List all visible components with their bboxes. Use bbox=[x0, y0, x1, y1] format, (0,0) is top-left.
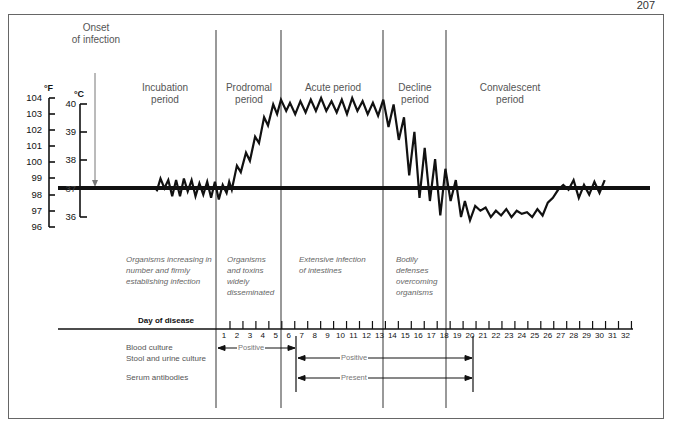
day-number: 23 bbox=[503, 331, 515, 340]
onset-label: Onset of infection bbox=[66, 22, 126, 46]
desc-line: Organisms bbox=[227, 254, 281, 265]
desc-line: Bodily bbox=[396, 254, 446, 265]
desc-line: defenses bbox=[396, 265, 446, 276]
period-convalescent: Convalescent period bbox=[470, 82, 550, 106]
day-number: 30 bbox=[594, 331, 606, 340]
desc-line: establishing infection bbox=[126, 276, 216, 287]
f-tick-99: 99 bbox=[18, 172, 42, 183]
day-number: 29 bbox=[581, 331, 593, 340]
onset-arrow bbox=[92, 73, 98, 187]
day-number: 12 bbox=[360, 331, 372, 340]
day-number: 10 bbox=[335, 331, 347, 340]
row-label-stool-urine-culture: Stool and urine culture bbox=[126, 354, 206, 363]
day-number: 17 bbox=[425, 331, 437, 340]
day-number: 15 bbox=[399, 331, 411, 340]
f-tick-103: 103 bbox=[18, 108, 42, 119]
desc-incubation: Organisms increasing in number and firml… bbox=[126, 254, 216, 287]
fahrenheit-unit: °F bbox=[44, 83, 53, 93]
period-name: Convalescent bbox=[470, 82, 550, 94]
period-prodromal: Prodromal period bbox=[218, 82, 280, 106]
period-name: Incubation bbox=[125, 82, 205, 94]
desc-line: Extensive infection bbox=[299, 254, 379, 265]
day-number: 20 bbox=[464, 331, 476, 340]
day-number: 2 bbox=[231, 331, 243, 340]
day-number: 22 bbox=[490, 331, 502, 340]
day-number: 1 bbox=[218, 331, 230, 340]
desc-prodromal: Organisms and toxins widely disseminated bbox=[227, 254, 281, 298]
onset-line2: of infection bbox=[66, 34, 126, 46]
period-name: period bbox=[125, 94, 205, 106]
c-tick-36: 36 bbox=[54, 211, 76, 222]
day-number: 5 bbox=[270, 331, 282, 340]
f-tick-98: 98 bbox=[18, 189, 42, 200]
c-tick-39: 39 bbox=[54, 126, 76, 137]
day-number: 31 bbox=[607, 331, 619, 340]
day-number: 7 bbox=[296, 331, 308, 340]
day-number: 8 bbox=[309, 331, 321, 340]
day-number: 24 bbox=[516, 331, 528, 340]
day-number: 21 bbox=[477, 331, 489, 340]
f-tick-100: 100 bbox=[18, 156, 42, 167]
celsius-axis bbox=[80, 104, 87, 217]
day-number: 26 bbox=[542, 331, 554, 340]
row-label-blood-culture: Blood culture bbox=[126, 343, 173, 352]
day-number: 6 bbox=[283, 331, 295, 340]
day-number: 18 bbox=[438, 331, 450, 340]
desc-acute: Extensive infection of intestines bbox=[299, 254, 379, 276]
day-number: 13 bbox=[373, 331, 385, 340]
day-number: 32 bbox=[619, 331, 631, 340]
day-number: 16 bbox=[412, 331, 424, 340]
day-number: 3 bbox=[244, 331, 256, 340]
desc-line: widely bbox=[227, 276, 281, 287]
desc-decline: Bodily defenses overcoming organisms bbox=[396, 254, 446, 298]
c-tick-38: 38 bbox=[54, 154, 76, 165]
period-decline: Decline period bbox=[384, 82, 446, 106]
period-name: period bbox=[218, 94, 280, 106]
f-tick-97: 97 bbox=[18, 205, 42, 216]
f-tick-101: 101 bbox=[18, 140, 42, 151]
desc-line: organisms bbox=[396, 287, 446, 298]
onset-line1: Onset bbox=[66, 22, 126, 34]
f-tick-96: 96 bbox=[18, 221, 42, 232]
serum-antibodies-result: Present bbox=[340, 373, 368, 382]
stool-urine-result: Positive bbox=[340, 353, 368, 362]
day-ticks bbox=[230, 321, 631, 329]
day-number: 25 bbox=[529, 331, 541, 340]
desc-line: number and firmly bbox=[126, 265, 216, 276]
desc-line: of intestines bbox=[299, 265, 379, 276]
day-number: 4 bbox=[257, 331, 269, 340]
f-tick-102: 102 bbox=[18, 124, 42, 135]
desc-line: Organisms increasing in bbox=[126, 254, 216, 265]
period-name: Decline bbox=[384, 82, 446, 94]
row-label-serum-antibodies: Serum antibodies bbox=[126, 373, 188, 382]
day-number: 27 bbox=[555, 331, 567, 340]
period-name: Acute period bbox=[285, 82, 381, 94]
day-number: 28 bbox=[568, 331, 580, 340]
day-number: 19 bbox=[451, 331, 463, 340]
c-tick-40: 40 bbox=[54, 98, 76, 109]
day-number: 11 bbox=[348, 331, 360, 340]
desc-line: and toxins bbox=[227, 265, 281, 276]
desc-line: overcoming bbox=[396, 276, 446, 287]
period-name: period bbox=[384, 94, 446, 106]
day-of-disease-label: Day of disease bbox=[138, 316, 194, 325]
blood-culture-result: Positive bbox=[237, 343, 265, 352]
period-incubation: Incubation period bbox=[125, 82, 205, 106]
fever-chart bbox=[0, 0, 675, 437]
f-tick-104: 104 bbox=[18, 92, 42, 103]
period-name: Prodromal bbox=[218, 82, 280, 94]
period-name: period bbox=[470, 94, 550, 106]
c-tick-37: 37 bbox=[54, 183, 76, 194]
desc-line: disseminated bbox=[227, 287, 281, 298]
period-acute: Acute period bbox=[285, 82, 381, 94]
day-number: 9 bbox=[322, 331, 334, 340]
day-number: 14 bbox=[386, 331, 398, 340]
temperature-curve bbox=[157, 98, 605, 220]
